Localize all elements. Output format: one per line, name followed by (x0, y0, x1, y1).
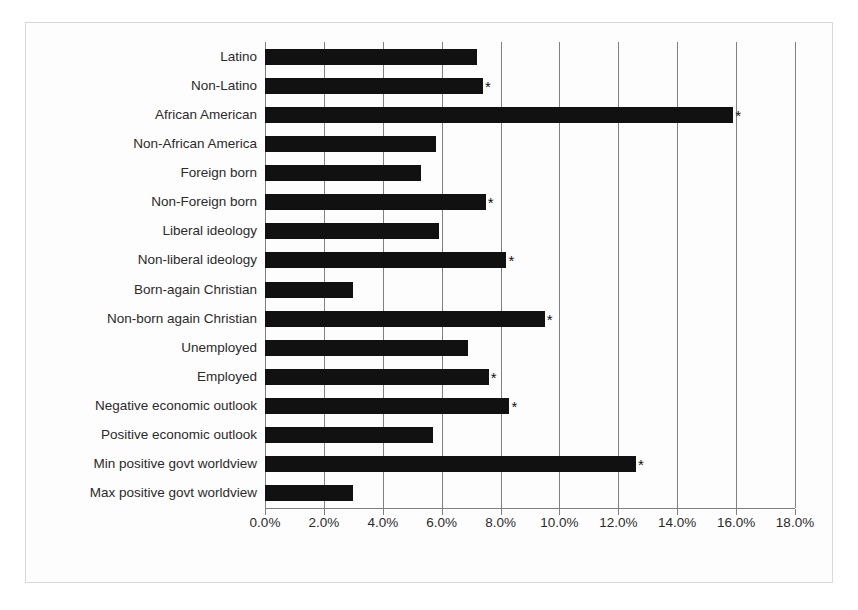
bar-row: Employed* (265, 362, 795, 391)
significance-asterisk: * (547, 312, 553, 327)
category-label: Latino (27, 50, 257, 64)
bar: * (265, 107, 733, 123)
significance-asterisk: * (491, 370, 497, 385)
bar: * (265, 194, 486, 210)
significance-asterisk: * (485, 79, 491, 94)
plot-area: LatinoNon-Latino*African American*Non-Af… (265, 42, 795, 508)
x-tick-label: 2.0% (308, 515, 339, 530)
category-label: Foreign born (27, 166, 257, 180)
bar: * (265, 252, 506, 268)
chart-figure: LatinoNon-Latino*African American*Non-Af… (25, 22, 833, 583)
bar-row: Non-born again Christian* (265, 304, 795, 333)
category-label: Non-Foreign born (27, 195, 257, 209)
bar (265, 49, 477, 65)
bar: * (265, 398, 509, 414)
category-label: Max positive govt worldview (27, 486, 257, 500)
x-tick-label: 18.0% (776, 515, 814, 530)
category-label: Min positive govt worldview (27, 457, 257, 471)
bar: * (265, 456, 636, 472)
bar-row: Unemployed (265, 333, 795, 362)
significance-asterisk: * (511, 399, 517, 414)
significance-asterisk: * (508, 254, 514, 269)
bar-row: Negative economic outlook* (265, 392, 795, 421)
bar-row: Non-Foreign born* (265, 188, 795, 217)
category-label: Non-born again Christian (27, 312, 257, 326)
significance-asterisk: * (638, 458, 644, 473)
category-label: Born-again Christian (27, 283, 257, 297)
bar-row: Non-liberal ideology* (265, 246, 795, 275)
category-label: Liberal ideology (27, 224, 257, 238)
x-tick-label: 6.0% (426, 515, 457, 530)
x-tick-label: 10.0% (540, 515, 578, 530)
bar-row: Positive economic outlook (265, 421, 795, 450)
bar-row: African American* (265, 100, 795, 129)
bar-row: Foreign born (265, 159, 795, 188)
x-tick-label: 0.0% (250, 515, 281, 530)
category-label: Negative economic outlook (27, 399, 257, 413)
category-label: Non-African America (27, 137, 257, 151)
x-tick-label: 16.0% (717, 515, 755, 530)
bar: * (265, 311, 545, 327)
bar (265, 136, 436, 152)
bar (265, 485, 353, 501)
bar (265, 340, 468, 356)
category-label: Positive economic outlook (27, 428, 257, 442)
bar-row: Liberal ideology (265, 217, 795, 246)
bar-row: Latino (265, 42, 795, 71)
category-label: Non-Latino (27, 79, 257, 93)
bar-row: Born-again Christian (265, 275, 795, 304)
category-label: Non-liberal ideology (27, 253, 257, 267)
significance-asterisk: * (735, 108, 741, 123)
x-tick-label: 14.0% (658, 515, 696, 530)
significance-asterisk: * (488, 195, 494, 210)
bar (265, 427, 433, 443)
bar-row: Max positive govt worldview (265, 479, 795, 508)
bar-row: Non-African America (265, 129, 795, 158)
x-tick-label: 4.0% (367, 515, 398, 530)
bar: * (265, 369, 489, 385)
x-axis-line (265, 508, 795, 509)
bar (265, 282, 353, 298)
x-tick-label: 12.0% (599, 515, 637, 530)
bar (265, 165, 421, 181)
bar-row: Min positive govt worldview* (265, 450, 795, 479)
x-tick-labels: 0.0%2.0%4.0%6.0%8.0%10.0%12.0%14.0%16.0%… (265, 515, 795, 537)
bar: * (265, 78, 483, 94)
gridline-18.0% (795, 42, 796, 508)
bar (265, 223, 439, 239)
category-label: African American (27, 108, 257, 122)
category-label: Unemployed (27, 341, 257, 355)
bar-row: Non-Latino* (265, 71, 795, 100)
x-tick-label: 8.0% (485, 515, 516, 530)
category-label: Employed (27, 370, 257, 384)
